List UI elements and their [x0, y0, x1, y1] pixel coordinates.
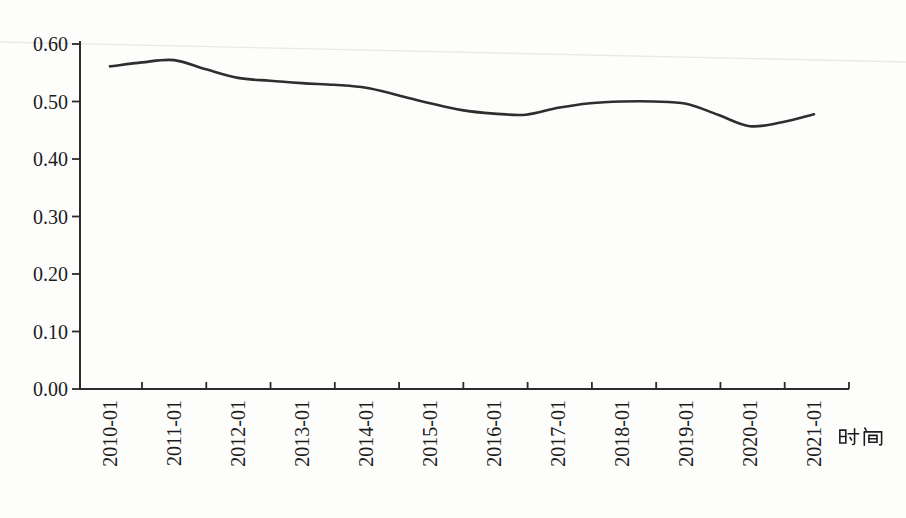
- line-chart: 0.000.100.200.300.400.500.60 2010-012011…: [0, 0, 906, 518]
- series-line: [110, 60, 814, 127]
- x-tick-label: 2010-01: [99, 400, 121, 467]
- x-axis-ticks: [142, 382, 849, 389]
- scanned-chart-page: 0.000.100.200.300.400.500.60 2010-012011…: [0, 0, 906, 518]
- scan-artifact-line: [0, 42, 906, 62]
- y-tick-label: 0.60: [33, 33, 68, 55]
- x-tick-label: 2017-01: [547, 400, 569, 467]
- x-tick-label: 2015-01: [419, 400, 441, 467]
- x-tick-label: 2020-01: [739, 400, 761, 467]
- x-tick-label: 2018-01: [611, 400, 633, 467]
- x-tick-label: 2014-01: [355, 400, 377, 467]
- y-tick-label: 0.00: [33, 378, 68, 400]
- glyph-shi: [840, 429, 859, 445]
- x-tick-label: 2013-01: [291, 400, 313, 467]
- y-tick-label: 0.50: [33, 91, 68, 113]
- xaxis-title-glyph: [840, 428, 882, 445]
- y-axis-labels: 0.000.100.200.300.400.500.60: [33, 33, 68, 400]
- x-tick-label: 2011-01: [163, 400, 185, 466]
- y-tick-label: 0.20: [33, 263, 68, 285]
- x-tick-label: 2016-01: [483, 400, 505, 467]
- y-tick-label: 0.10: [33, 321, 68, 343]
- y-axis-ticks: [72, 44, 80, 389]
- x-tick-label: 2012-01: [227, 400, 249, 467]
- glyph-jian: [864, 428, 881, 445]
- x-tick-label: 2019-01: [675, 400, 697, 467]
- x-tick-label: 2021-01: [803, 400, 825, 467]
- y-tick-label: 0.30: [33, 206, 68, 228]
- x-axis-labels: 2010-012011-012012-012013-012014-012015-…: [99, 400, 825, 467]
- y-tick-label: 0.40: [33, 148, 68, 170]
